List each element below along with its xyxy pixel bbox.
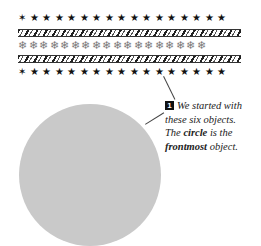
step-number-badge: 1	[165, 101, 174, 110]
callout-text: 1We started with these six objects. The …	[165, 99, 261, 153]
bold-term-circle: circle	[183, 127, 207, 138]
text: The	[165, 127, 183, 138]
text: is the	[207, 127, 232, 138]
leader-line-to-circle	[145, 112, 164, 125]
star-row-bottom: ✶★★★★★★★★★★★★★★★★	[18, 67, 241, 77]
callout-line-4: frontmost object.	[165, 140, 261, 154]
callout-line-2: these six objects.	[165, 113, 261, 127]
star-row-top: ✶★★★★★★★★★★★★★★★★	[18, 13, 241, 23]
callout-line-3: The circle is the	[165, 126, 261, 140]
gray-circle	[19, 104, 161, 246]
leader-line-to-rows	[163, 76, 175, 100]
braid-row-top	[18, 29, 241, 37]
callout-line-1: We started with	[177, 100, 242, 111]
braid-row-bottom	[18, 55, 241, 63]
text: object.	[207, 141, 238, 152]
bold-term-frontmost: frontmost	[165, 141, 207, 152]
snowflake-row: ❄❄❄❄❄❄❄❄❄❄❄❄❄❄❄❄❄❄	[18, 40, 241, 51]
